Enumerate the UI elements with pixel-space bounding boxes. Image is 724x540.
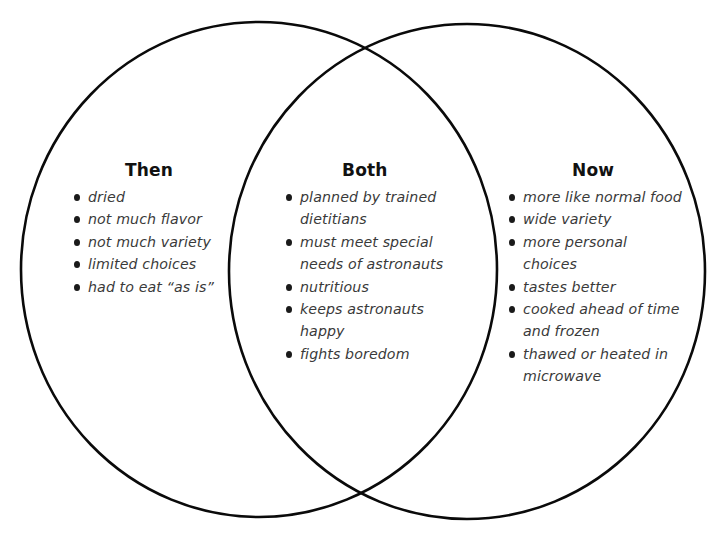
- bullet-icon: [509, 284, 515, 291]
- bullet-icon: [509, 194, 515, 201]
- list-item: keeps astronauts happy: [287, 298, 472, 343]
- list-item: tastes better: [510, 276, 695, 298]
- bullet-icon: [286, 239, 292, 246]
- list-item: more like normal food: [510, 186, 695, 208]
- bullet-icon: [509, 239, 515, 246]
- list-item: not much variety: [75, 231, 214, 253]
- both-title: Both: [342, 160, 388, 180]
- bullet-icon: [286, 306, 292, 313]
- bullet-icon: [286, 351, 292, 358]
- list-item: had to eat “as is”: [75, 276, 214, 298]
- list-item: planned by trained dietitians: [287, 186, 472, 231]
- both-list: planned by trained dietitians must meet …: [287, 186, 472, 365]
- bullet-icon: [509, 306, 515, 313]
- bullet-icon: [509, 351, 515, 358]
- list-item: fights boredom: [287, 343, 472, 365]
- then-list: dried not much flavor not much variety l…: [75, 186, 214, 298]
- bullet-icon: [509, 216, 515, 223]
- bullet-icon: [74, 261, 80, 268]
- bullet-icon: [286, 284, 292, 291]
- list-item: must meet special needs of astronauts: [287, 231, 472, 276]
- bullet-icon: [74, 239, 80, 246]
- list-item: limited choices: [75, 253, 214, 275]
- list-item: dried: [75, 186, 214, 208]
- list-item: not much flavor: [75, 208, 214, 230]
- list-item: cooked ahead of time and frozen: [510, 298, 695, 343]
- list-item: wide variety: [510, 208, 695, 230]
- list-item: more personal choices: [510, 231, 695, 276]
- now-title: Now: [572, 160, 614, 180]
- bullet-icon: [74, 284, 80, 291]
- bullet-icon: [286, 194, 292, 201]
- list-item: nutritious: [287, 276, 472, 298]
- bullet-icon: [74, 216, 80, 223]
- now-list: more like normal food wide variety more …: [510, 186, 695, 388]
- bullet-icon: [74, 194, 80, 201]
- list-item: thawed or heated in microwave: [510, 343, 695, 388]
- then-title: Then: [125, 160, 173, 180]
